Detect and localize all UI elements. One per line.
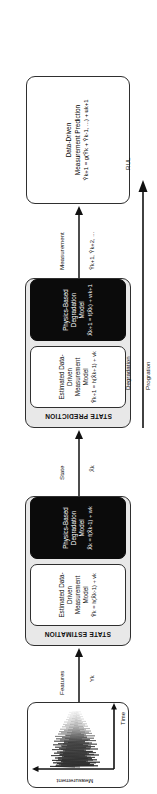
state-estimation-group: STATE ESTIMATION Estimated Data-Driven M… (25, 496, 131, 646)
connector-measurement (72, 204, 86, 278)
degradation-model-line1: Physics-Based (62, 289, 70, 331)
connector-measurement-symbol: Ŷk+1, Ŷk+2, ... (89, 232, 95, 270)
measurement-prediction-line1: Data-Driven (65, 123, 73, 158)
measurement-model-line1: Estimated Data-Driven (58, 351, 74, 403)
connector-state-label: State (58, 466, 65, 480)
connector-progression-label: Progration (144, 361, 151, 390)
degradation-model-line1: Physics-Based (62, 507, 70, 549)
measurement-model-line1: Estimated Data-Driven (58, 569, 74, 621)
diagram-canvas: Measurement Time Features Yk STATE ESTIM… (0, 0, 157, 794)
state-prediction-title: STATE PREDICTION (30, 413, 126, 421)
connector-features-symbol: Yk (89, 675, 95, 682)
state-estimation-measurement-model: Estimated Data-Driven Measurement Model … (30, 564, 126, 626)
raw-measurement-signal-plot: Measurement Time (27, 702, 129, 788)
measurement-prediction-line2: Measurement Prediction (74, 105, 82, 175)
measurement-model-equation: Ŷk = h(X̂k-1) + vk (91, 573, 98, 617)
connector-features-label: Features (58, 671, 65, 695)
connector-degradation-label: Degradation (124, 356, 131, 390)
degradation-model-equation: X̂k = f(X̂k-1) + wk (87, 506, 94, 550)
state-estimation-degradation-model: Physics-Based Degradation Model X̂k = f(… (30, 497, 126, 559)
measurement-model-equation: Ŷk+1 = h(X̂k+1) + vk (91, 351, 98, 403)
plot-y-axis-label: Measurement (57, 778, 94, 784)
connector-rul-label: RUL (124, 158, 131, 170)
state-estimation-title: STATE ESTIMATION (30, 631, 126, 639)
plot-x-axis-label: Time (120, 712, 126, 725)
connector-state-symbol: X̂k (89, 465, 95, 472)
measurement-model-line2: Measurement Model (74, 569, 90, 621)
connector-state (72, 428, 86, 496)
degradation-model-equation: X̂k+1 = f(X̂k) + wk+1 (87, 284, 94, 336)
state-prediction-group: STATE PREDICTION Estimated Data-Driven M… (25, 278, 131, 428)
measurement-model-line2: Measurement Model (74, 351, 90, 403)
degradation-model-line2: Degradation Model (70, 502, 86, 554)
connector-features (72, 646, 86, 702)
connector-rul (137, 178, 149, 428)
measurement-prediction-equation: Ŷk+1 = g(Ŷk + Ŷk-1, ...) + uk+1 (83, 99, 91, 180)
state-prediction-measurement-model: Estimated Data-Driven Measurement Model … (30, 346, 126, 408)
signal-plot-svg (28, 701, 130, 787)
state-prediction-degradation-model: Physics-Based Degradation Model X̂k+1 = … (30, 279, 126, 341)
measurement-prediction-box: Data-Driven Measurement Prediction Ŷk+1 … (26, 76, 130, 204)
degradation-model-line2: Degradation Model (70, 284, 86, 336)
connector-measurement-label: Measurement (58, 232, 65, 270)
